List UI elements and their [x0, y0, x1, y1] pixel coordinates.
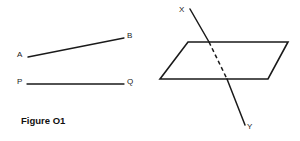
point-label-p: P [17, 78, 22, 86]
point-label-b: B [127, 32, 132, 40]
figure-canvas: A B P Q X Y Figure O1 [0, 0, 300, 141]
plane-parallelogram [160, 42, 288, 79]
point-label-x: X [179, 6, 184, 14]
point-label-y: Y [247, 123, 252, 131]
line-xy-behind-plane-dashed [209, 42, 227, 79]
point-label-a: A [17, 51, 22, 59]
point-label-q: Q [127, 78, 133, 86]
line-xy-below-plane [227, 79, 245, 125]
figure-caption: Figure O1 [21, 116, 65, 126]
line-xy-above-plane [190, 9, 209, 42]
segment-ab-line [28, 38, 124, 57]
